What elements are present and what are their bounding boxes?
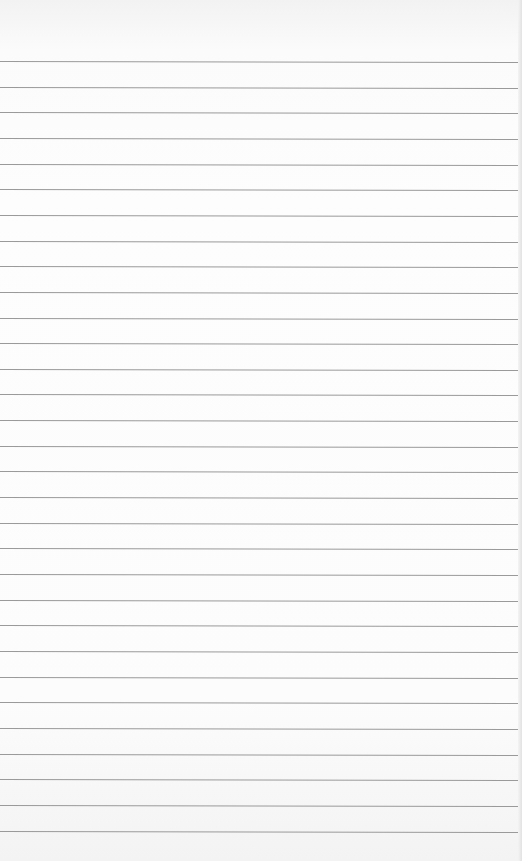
ruled-line [0,266,518,268]
ruled-line [0,779,518,781]
ruled-line [0,241,518,243]
ruled-line [0,215,518,217]
ruled-line [0,728,518,730]
lined-paper-sheet [0,0,522,861]
ruled-line [0,112,518,114]
ruled-line [0,189,518,191]
ruled-line [0,164,518,166]
ruled-line [0,292,518,294]
ruled-line [0,625,518,627]
ruled-line [0,754,518,756]
ruled-line [0,600,518,602]
ruled-line [0,318,518,320]
ruled-line [0,702,518,704]
ruled-line [0,497,518,499]
ruled-line [0,446,518,448]
ruled-line [0,651,518,653]
ruled-line [0,369,518,371]
ruled-line [0,138,518,140]
ruled-line [0,677,518,679]
ruled-line [0,523,518,525]
ruled-line [0,471,518,473]
ruled-line [0,87,518,89]
ruled-line [0,805,518,807]
ruled-line [0,574,518,576]
ruled-line [0,343,518,345]
paper-edge-shadow [518,0,522,861]
ruled-line [0,420,518,422]
ruled-line [0,61,518,63]
ruled-line [0,394,518,396]
ruled-line [0,548,518,550]
ruled-line [0,831,518,833]
